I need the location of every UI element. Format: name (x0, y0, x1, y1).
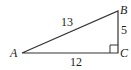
side-label-bc: 5 (121, 23, 127, 37)
vertex-label-a: A (9, 46, 18, 60)
vertex-label-c: C (120, 46, 129, 60)
vertex-label-b: B (120, 3, 128, 17)
side-label-ab: 13 (61, 15, 73, 29)
right-angle-marker (110, 45, 118, 53)
triangle-diagram: A B C 13 5 12 (0, 0, 131, 70)
side-label-ac: 12 (70, 55, 82, 69)
